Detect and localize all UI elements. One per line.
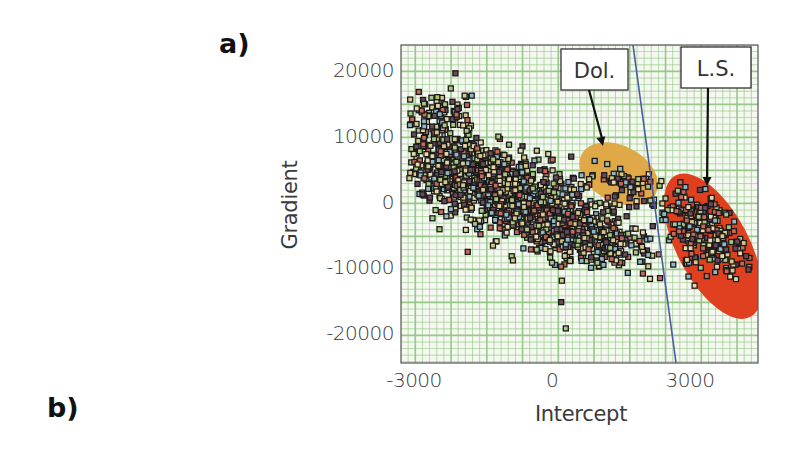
x-tick-label: 0 [546,368,558,392]
y-tick-label: 20000 [333,58,394,82]
ls-label: L.S. [697,57,735,81]
y-axis-title: Gradient [278,160,302,249]
y-tick-label: -10000 [326,255,394,279]
dol-label: Dol. [574,59,616,83]
y-tick-label: 10000 [333,124,394,148]
x-tick-label: 3000 [666,368,715,392]
arrow [707,88,708,182]
y-tick-label: 0 [382,190,394,214]
y-tick-label: -20000 [326,321,394,345]
x-tick-label: -3000 [386,368,442,392]
x-axis-title: Intercept [535,402,627,426]
